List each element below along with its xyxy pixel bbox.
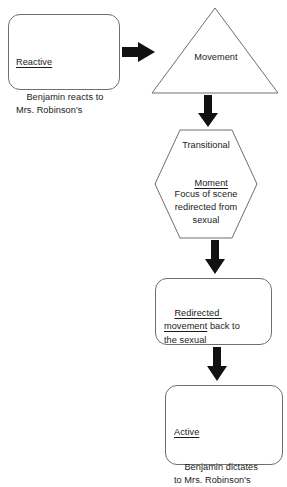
node-transitional-moment-underlined: Moment — [194, 178, 228, 188]
node-movement-label: Movement — [170, 51, 262, 64]
arrow-movement-to-transitional — [196, 95, 220, 129]
node-active-heading: Active — [174, 426, 280, 439]
arrow-transitional-to-redirected — [203, 240, 227, 276]
arrow-redirected-to-active — [205, 347, 229, 383]
node-transitional-line1: Transitional — [158, 139, 254, 152]
node-reactive-heading: Reactive — [16, 56, 118, 69]
node-reactive-text: Reactive Benjamin reacts to Mrs. Robinso… — [16, 30, 118, 130]
node-active-body: Benjamin dictates to Mrs. Robinson's — [174, 462, 258, 485]
node-active-text: Active Benjamin dictates to Mrs. Robinso… — [174, 400, 280, 487]
node-reactive-body: Benjamin reacts to Mrs. Robinson's — [16, 92, 103, 115]
node-transitional-body: Focus of scene redirected from sexual — [155, 188, 257, 228]
